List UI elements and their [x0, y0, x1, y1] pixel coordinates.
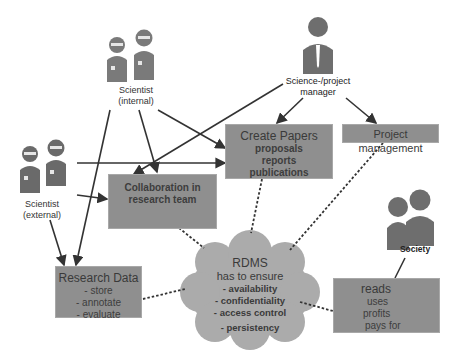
manager-label-line2: manager	[300, 87, 336, 97]
collaboration-title-line2: research team	[109, 194, 216, 206]
rdms-item: - confidentiality	[195, 295, 305, 307]
collaboration-title-line1: Collaboration in	[109, 182, 216, 194]
society-icon	[387, 190, 434, 251]
research-data-item: - store	[56, 285, 141, 297]
scientist-internal-label-line1: Scientist	[119, 85, 153, 95]
society-box-item: profits	[334, 308, 439, 320]
research-data-title: Research Data	[56, 271, 141, 285]
rdms-item: - persistency	[195, 322, 305, 334]
society-box: reads uses profits pays for	[333, 278, 440, 333]
manager-icon	[303, 17, 333, 74]
rdms-item: - availability	[195, 283, 305, 295]
manager-label: Science-/project manager	[282, 76, 354, 98]
research-data-item: - annotate	[56, 297, 141, 309]
scientist-internal-label: Scientist (internal)	[110, 85, 162, 107]
rdms-title: RDMS	[195, 256, 305, 270]
scientist-external-label: Scientist (external)	[12, 199, 72, 221]
create-papers-item: reports	[226, 155, 332, 167]
society-box-item: pays for	[334, 320, 439, 332]
rdms-subtitle: has to ensure	[195, 270, 305, 283]
collaboration-box: Collaboration in research team	[108, 174, 217, 229]
society-box-item: reads	[334, 282, 439, 296]
create-papers-item: proposals	[226, 143, 332, 155]
create-papers-box: Create Papers proposals reports publicat…	[225, 124, 333, 179]
scientist-external-label-line2: (external)	[23, 210, 61, 220]
scientist-external-icon	[20, 140, 66, 194]
manager-label-line1: Science-/project	[286, 76, 351, 86]
research-data-box: Research Data - store - annotate - evalu…	[55, 266, 142, 318]
society-label: Society	[392, 244, 438, 255]
society-box-item: uses	[334, 296, 439, 308]
society-label-text: Society	[400, 244, 430, 254]
scientist-internal-icon	[107, 30, 154, 83]
rdms-item: - access control	[195, 307, 305, 319]
scientist-internal-label-line2: (internal)	[118, 96, 154, 106]
research-data-item: - evaluate	[56, 309, 141, 321]
project-management-title: Project management	[343, 127, 438, 155]
scientist-external-label-line1: Scientist	[25, 199, 59, 209]
create-papers-title: Create Papers	[226, 129, 332, 143]
society-connector	[395, 258, 405, 278]
rdms-cloud: RDMS has to ensure - availability - conf…	[195, 256, 305, 334]
diagram-canvas: Scientist (internal) Scientist (external…	[0, 0, 458, 352]
project-management-box: Project management	[342, 124, 439, 143]
create-papers-item: publications	[226, 167, 332, 179]
